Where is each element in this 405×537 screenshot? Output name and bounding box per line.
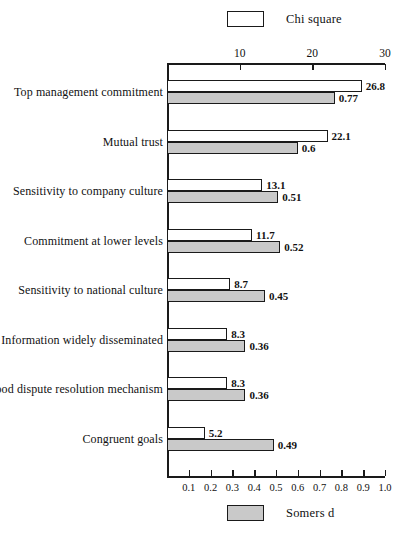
category-label: Sensitivity to national culture [18,283,163,298]
plot-area: 102030 0.10.20.30.40.50.60.70.80.91.0 26… [167,63,385,478]
bottom-axis-tick [385,470,386,476]
bar-value-chi-square: 26.8 [366,80,385,92]
top-axis-tick [385,64,386,70]
legend-label-chi-square: Chi square [286,12,342,27]
category-label: Information widely disseminated [1,332,163,347]
bar-value-somers-d: 0.52 [284,241,303,253]
legend-swatch-chi-square-icon [227,11,264,27]
bar-value-somers-d: 0.77 [339,92,358,104]
bar-chi-square [167,229,252,241]
category-label: Congruent goals [83,431,164,446]
legend-label-somers-d: Somers d [286,506,334,521]
bottom-axis-tick [254,470,255,476]
bar-chi-square [167,130,328,142]
y-axis-line [167,63,169,478]
bottom-axis-tick [341,470,342,476]
bar-value-somers-d: 0.49 [278,439,297,451]
bar-value-somers-d: 0.51 [282,191,301,203]
bar-somers-d [167,439,274,451]
bottom-axis-tick-label: 0.2 [204,482,217,493]
bar-value-somers-d: 0.6 [302,142,316,154]
bar-chi-square [167,377,227,389]
bottom-axis-tick-label: 1.0 [378,482,391,493]
bar-value-chi-square: 13.1 [266,179,285,191]
bar-value-chi-square: 11.7 [256,229,275,241]
bar-chi-square [167,328,227,340]
top-axis-tick-label: 10 [234,47,246,59]
category-label: Mutual trust [103,134,163,149]
bar-somers-d [167,142,298,154]
bar-somers-d [167,290,265,302]
bottom-axis-tick-label: 0.9 [357,482,370,493]
bar-value-chi-square: 8.3 [231,328,245,340]
category-label: Sensitivity to company culture [13,184,163,199]
bar-somers-d [167,389,245,401]
legend-chi-square: Chi square [227,11,342,27]
bottom-axis-tick [211,470,212,476]
bar-chi-square [167,179,262,191]
bar-value-chi-square: 8.3 [231,377,245,389]
bottom-axis-tick [232,470,233,476]
category-label: Commitment at lower levels [24,233,163,248]
top-axis-tick-label: 20 [307,47,319,59]
bar-value-somers-d: 0.45 [269,290,288,302]
bottom-axis-tick-label: 0.7 [313,482,326,493]
legend-swatch-somers-d-icon [227,505,264,521]
legend-somers-d: Somers d [227,505,334,521]
category-label: Top management commitment [14,85,163,100]
top-axis-line [167,63,385,65]
bar-value-chi-square: 5.2 [209,427,223,439]
bar-chi-square [167,278,230,290]
bar-chi-square [167,80,362,92]
bottom-axis-tick-label: 0.3 [226,482,239,493]
bar-value-somers-d: 0.36 [249,389,268,401]
bar-somers-d [167,191,278,203]
top-axis-tick [312,64,313,70]
bottom-axis-tick [320,470,321,476]
bottom-axis-tick-label: 0.4 [248,482,261,493]
bottom-axis-tick-label: 0.8 [335,482,348,493]
bottom-axis-tick [276,470,277,476]
bottom-axis-tick [189,470,190,476]
bottom-axis-tick [363,470,364,476]
category-label: Good dispute resolution mechanism [0,382,163,397]
bottom-axis-tick-label: 0.1 [182,482,195,493]
bar-value-chi-square: 22.1 [332,130,351,142]
bar-value-chi-square: 8.7 [234,278,248,290]
category-label-column: Top management commitmentMutual trustSen… [0,63,163,478]
bar-somers-d [167,241,280,253]
top-axis-tick-label: 30 [379,47,391,59]
bottom-axis-tick-label: 0.5 [269,482,282,493]
bar-somers-d [167,340,245,352]
top-axis-tick [240,64,241,70]
bottom-axis-tick-label: 0.6 [291,482,304,493]
bar-somers-d [167,92,335,104]
bar-value-somers-d: 0.36 [249,340,268,352]
bottom-axis-tick [298,470,299,476]
bar-chi-square [167,427,205,439]
bottom-axis-line [167,476,385,478]
